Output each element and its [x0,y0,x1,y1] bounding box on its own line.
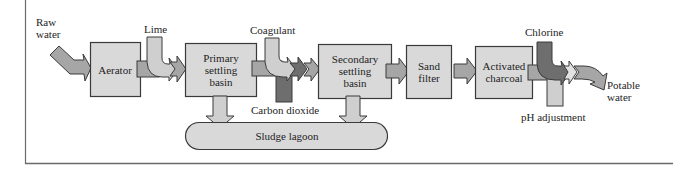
stage-primary-settling-basin: Primary settling basin [186,44,257,97]
lime-label: Lime [144,23,167,35]
stage-aerator: Aerator [91,43,141,97]
svg-text:Activated: Activated [483,60,526,72]
svg-text:Sludge lagoon: Sludge lagoon [255,130,319,142]
raw-water-label-line1: Raw [36,16,56,28]
sludge-lagoon: Sludge lagoon [186,123,388,150]
potable-water-label-line2: water [607,91,632,103]
ph-adjustment-label: pH adjustment [521,111,585,123]
potable-water-label-line1: Potable [607,79,640,91]
svg-text:basin: basin [343,77,367,89]
svg-text:Primary: Primary [203,52,239,64]
coagulant-label: Coagulant [250,24,295,36]
svg-text:Sand: Sand [418,60,441,72]
stage-activated-charcoal: Activated charcoal [476,47,533,99]
stage-secondary-settling-basin: Secondary settling basin [319,45,392,99]
potable-water-outlet-arrow-icon [574,66,607,90]
stage-sand-filter: Sand filter [407,46,452,99]
svg-text:charcoal: charcoal [485,72,522,84]
svg-text:Aerator: Aerator [98,64,132,76]
svg-text:basin: basin [209,76,233,88]
svg-text:settling: settling [205,64,238,76]
flow-arrow-into-charcoal-icon [454,58,477,84]
carbon-dioxide-label: Carbon dioxide [251,104,319,116]
svg-text:filter: filter [418,72,440,84]
raw-water-inlet-arrow-icon [50,46,91,81]
svg-text:settling: settling [339,65,372,77]
chlorine-label: Chlorine [525,26,564,38]
svg-text:Secondary: Secondary [332,53,379,65]
raw-water-label-line2: water [36,28,61,40]
water-treatment-diagram: Raw water Aerator Lime Primary settling … [0,0,673,169]
